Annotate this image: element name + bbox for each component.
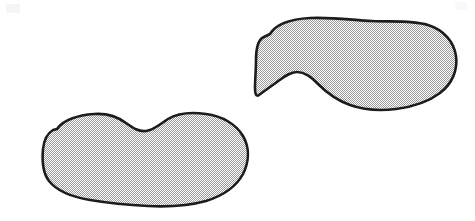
footprint-figure-svg: Upper right footprint Lower left footpri…: [0, 0, 475, 221]
figure-canvas: Two shaded footprint outlines Upper righ…: [0, 0, 475, 221]
